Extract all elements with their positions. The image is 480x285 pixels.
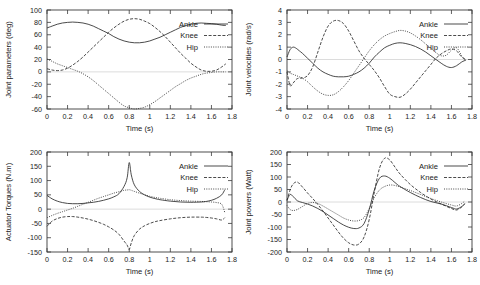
x-axis-title: Time (s)	[126, 267, 154, 276]
curve-ankle	[47, 22, 226, 43]
y-tick-label: 60	[34, 30, 42, 39]
y-tick-label: -150	[28, 248, 42, 257]
x-tick-label: 0.8	[364, 112, 374, 121]
x-tick-label: 1.4	[186, 255, 196, 264]
x-axis-title: Time (s)	[366, 124, 394, 133]
x-tick-label: 1.4	[186, 112, 196, 121]
y-tick-label: 3	[278, 18, 282, 27]
legend-label-hip: Hip	[427, 43, 438, 52]
legend-label-ankle: Ankle	[419, 162, 438, 171]
x-axis-title: Time (s)	[366, 267, 394, 276]
x-tick-label: 0.8	[124, 255, 134, 264]
y-tick-label: 50	[274, 185, 282, 194]
y-tick-label: 200	[270, 148, 282, 157]
x-tick-label: 0.4	[83, 255, 93, 264]
plot-cell-actuator-torques: 00.20.40.60.811.21.41.61.8-150-100-50050…	[0, 142, 240, 285]
plot-cell-joint-velocities: 00.20.40.60.811.21.41.61.8-4-3-2-101234T…	[240, 0, 480, 142]
y-tick-label: 0	[278, 55, 282, 64]
y-tick-label: 4	[278, 6, 282, 15]
x-tick-label: 1	[388, 255, 392, 264]
y-tick-label: -2	[276, 80, 282, 89]
x-tick-label: 1.6	[446, 255, 456, 264]
plot-joint-velocities: 00.20.40.60.811.21.41.61.8-4-3-2-101234T…	[240, 0, 480, 142]
y-tick-label: -4	[276, 105, 282, 114]
y-tick-label: -60	[32, 105, 42, 114]
plot-actuator-torques: 00.20.40.60.811.21.41.61.8-150-100-50050…	[0, 142, 240, 285]
x-tick-label: 1.4	[426, 255, 436, 264]
plot-joint-powers: 00.20.40.60.811.21.41.61.8-200-150-100-5…	[240, 142, 480, 285]
y-tick-label: -100	[28, 233, 42, 242]
plot-cell-joint-powers: 00.20.40.60.811.21.41.61.8-200-150-100-5…	[240, 142, 480, 285]
y-tick-label: -200	[268, 248, 282, 257]
x-tick-label: 1.4	[426, 112, 436, 121]
figure-grid: 00.20.40.60.811.21.41.61.8-60-40-2002040…	[0, 0, 480, 285]
x-tick-label: 1.6	[206, 255, 216, 264]
x-tick-label: 1.2	[405, 112, 415, 121]
plot-joint-parameters: 00.20.40.60.811.21.41.61.8-60-40-2002040…	[0, 0, 240, 142]
curve-knee	[287, 158, 465, 245]
x-tick-label: 1.6	[446, 112, 456, 121]
x-tick-label: 0.6	[104, 255, 114, 264]
curve-knee	[47, 217, 225, 250]
plot-frame	[47, 10, 232, 109]
legend-label-knee: Knee	[420, 173, 438, 182]
y-axis-title: Joint powers (Watt)	[244, 169, 253, 235]
x-tick-label: 1	[388, 112, 392, 121]
x-tick-label: 1.2	[165, 112, 175, 121]
legend-label-knee: Knee	[180, 31, 198, 40]
x-tick-label: 0.4	[83, 112, 93, 121]
y-tick-label: 1	[278, 43, 282, 52]
x-tick-label: 0.8	[124, 112, 134, 121]
x-tick-label: 0.8	[364, 255, 374, 264]
x-tick-label: 0.2	[63, 255, 73, 264]
y-tick-label: 0	[38, 67, 42, 76]
x-tick-label: 0	[45, 112, 49, 121]
curve-hip	[47, 59, 226, 109]
x-tick-label: 0	[285, 112, 289, 121]
x-tick-label: 0.6	[344, 255, 354, 264]
x-tick-label: 0.6	[344, 112, 354, 121]
y-tick-label: 150	[30, 162, 42, 171]
curve-hip	[287, 30, 466, 95]
x-tick-label: 1.8	[227, 255, 237, 264]
y-tick-label: -1	[276, 67, 282, 76]
y-tick-label: 100	[30, 176, 42, 185]
legend-label-hip: Hip	[187, 43, 198, 52]
x-tick-label: 1.8	[467, 112, 477, 121]
y-tick-label: -50	[272, 210, 282, 219]
x-tick-label: 0.2	[303, 255, 313, 264]
y-tick-label: 50	[34, 190, 42, 199]
y-tick-label: -40	[32, 92, 42, 101]
x-tick-label: 0	[45, 255, 49, 264]
x-tick-label: 1	[148, 112, 152, 121]
legend-label-ankle: Ankle	[419, 20, 438, 29]
legend-label-hip: Hip	[427, 185, 438, 194]
y-tick-label: 2	[278, 30, 282, 39]
x-tick-label: 0	[285, 255, 289, 264]
y-tick-label: -150	[268, 235, 282, 244]
legend-label-hip: Hip	[187, 185, 198, 194]
y-tick-label: -20	[32, 80, 42, 89]
y-tick-label: 150	[270, 160, 282, 169]
y-tick-label: -50	[32, 219, 42, 228]
y-tick-label: 80	[34, 18, 42, 27]
x-tick-label: 1.8	[467, 255, 477, 264]
y-tick-label: 200	[30, 148, 42, 157]
legend-label-ankle: Ankle	[179, 162, 198, 171]
y-tick-label: -100	[268, 223, 282, 232]
y-tick-label: 0	[38, 205, 42, 214]
x-tick-label: 1.2	[405, 255, 415, 264]
y-axis-title: Actuator Torques (N.m)	[4, 162, 13, 241]
legend-label-ankle: Ankle	[179, 20, 198, 29]
x-tick-label: 1.8	[227, 112, 237, 121]
curve-knee	[287, 20, 466, 97]
x-tick-label: 0.6	[104, 112, 114, 121]
y-tick-label: 100	[30, 6, 42, 15]
x-tick-label: 1.2	[165, 255, 175, 264]
curve-ankle	[47, 163, 225, 204]
y-tick-label: 20	[34, 55, 42, 64]
curve-knee	[47, 19, 226, 72]
x-axis-title: Time (s)	[126, 124, 154, 133]
y-axis-title: Joint velocities (rad/s)	[244, 22, 253, 96]
y-tick-label: 40	[34, 43, 42, 52]
